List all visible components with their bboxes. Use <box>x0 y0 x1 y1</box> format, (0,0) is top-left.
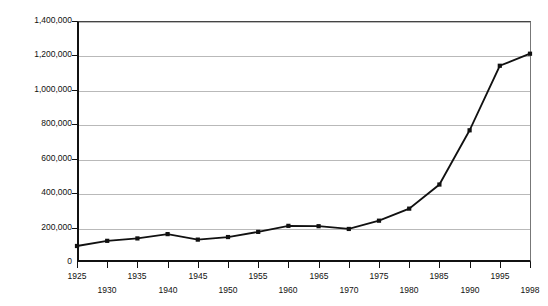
x-axis-tick-mark <box>288 262 289 268</box>
chart-container: Number of prisoners 0200,000400,000600,0… <box>0 0 548 306</box>
x-axis-tick-label: 1990 <box>452 286 488 295</box>
y-axis-tick-label: 1,400,000 <box>0 16 72 25</box>
x-axis-tick-label: 1930 <box>89 286 125 295</box>
y-axis-tick-label: 1,000,000 <box>0 85 72 94</box>
x-axis-tick-label: 1975 <box>361 272 397 281</box>
x-axis-tick-label: 1925 <box>59 272 95 281</box>
y-axis-tick-label: 200,000 <box>0 223 72 232</box>
x-axis-tick-mark <box>198 262 199 268</box>
plot-area <box>77 21 531 262</box>
gridline <box>79 125 530 126</box>
x-axis-tick-mark <box>349 262 350 268</box>
x-axis-tick-mark <box>228 262 229 268</box>
x-axis-tick-mark <box>107 262 108 268</box>
x-axis-tick-mark <box>379 262 380 268</box>
y-axis-tick-label: 1,200,000 <box>0 50 72 59</box>
gridline <box>79 22 530 23</box>
x-axis-tick-mark <box>168 262 169 268</box>
gridline <box>79 229 530 230</box>
y-axis-tick-label: 0 <box>0 257 72 266</box>
x-axis-tick-label: 1965 <box>301 272 337 281</box>
x-axis-tick-label: 1970 <box>331 286 367 295</box>
x-axis-tick-mark <box>319 262 320 268</box>
x-axis-tick-mark <box>500 262 501 268</box>
x-axis-tick-mark <box>258 262 259 268</box>
x-axis-tick-label: 1980 <box>391 286 427 295</box>
y-axis-tick-label: 400,000 <box>0 188 72 197</box>
x-axis-tick-mark <box>470 262 471 268</box>
x-axis-tick-label: 1945 <box>180 272 216 281</box>
x-axis-tick-label: 1998 <box>512 286 548 295</box>
y-axis-tick-label: 800,000 <box>0 119 72 128</box>
gridline <box>79 194 530 195</box>
x-axis-tick-mark <box>530 262 531 268</box>
x-axis-tick-label: 1995 <box>482 272 518 281</box>
y-axis-tick-label: 600,000 <box>0 154 72 163</box>
x-axis-tick-label: 1985 <box>421 272 457 281</box>
x-axis-tick-label: 1960 <box>270 286 306 295</box>
x-axis-tick-mark <box>409 262 410 268</box>
x-axis-tick-label: 1935 <box>119 272 155 281</box>
gridline <box>79 56 530 57</box>
x-axis-tick-mark <box>137 262 138 268</box>
x-axis-tick-mark <box>77 262 78 268</box>
x-axis-tick-label: 1955 <box>240 272 276 281</box>
x-axis-tick-mark <box>439 262 440 268</box>
x-axis-tick-label: 1950 <box>210 286 246 295</box>
gridline <box>79 160 530 161</box>
x-axis-tick-label: 1940 <box>150 286 186 295</box>
gridline <box>79 91 530 92</box>
